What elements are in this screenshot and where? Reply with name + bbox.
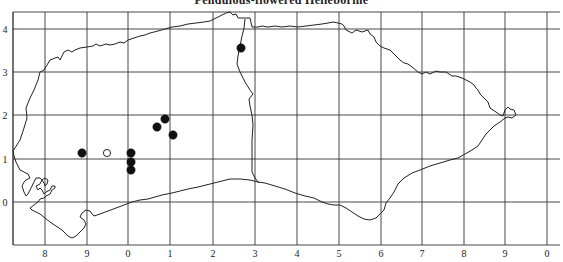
- x-axis-label: 2: [211, 248, 216, 259]
- y-axis-label: 2: [3, 110, 8, 121]
- x-axis-label: 9: [85, 248, 90, 259]
- vice-county-boundary: [237, 19, 259, 183]
- record-dot-filled: [127, 166, 135, 174]
- grid-lines: [13, 12, 560, 245]
- x-axis-label: 5: [337, 248, 342, 259]
- x-axis-label: 9: [503, 248, 508, 259]
- x-axis-labels: 8901234567890: [43, 248, 550, 259]
- record-dot-filled: [78, 149, 86, 157]
- y-axis-labels: 43210: [3, 24, 8, 208]
- y-axis-label: 0: [3, 197, 8, 208]
- record-dot-filled: [169, 131, 177, 139]
- distribution-map: 8901234567890 43210: [0, 0, 563, 262]
- x-axis-label: 0: [126, 248, 131, 259]
- record-dot-hollow: [103, 149, 110, 156]
- record-dot-filled: [153, 123, 161, 131]
- x-axis-label: 7: [420, 248, 425, 259]
- x-axis-label: 8: [43, 248, 48, 259]
- x-axis-label: 4: [295, 248, 300, 259]
- x-axis-label: 6: [379, 248, 384, 259]
- record-dot-filled: [161, 115, 169, 123]
- y-axis-label: 3: [3, 67, 8, 78]
- y-axis-label: 4: [3, 24, 8, 35]
- record-dots: [78, 44, 245, 174]
- x-axis-label: 1: [168, 248, 173, 259]
- x-axis-label: 0: [545, 248, 550, 259]
- x-axis-label: 3: [253, 248, 258, 259]
- county-outline: [13, 12, 516, 238]
- x-axis-label: 8: [462, 248, 467, 259]
- y-axis-label: 1: [3, 154, 8, 165]
- record-dot-filled: [127, 158, 135, 166]
- record-dot-filled: [127, 149, 135, 157]
- record-dot-filled: [237, 44, 245, 52]
